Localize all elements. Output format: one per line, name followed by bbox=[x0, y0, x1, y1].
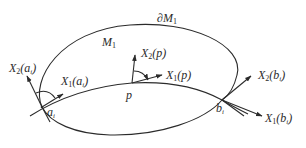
x1-b-label: X1(bi) bbox=[265, 112, 292, 126]
angle-arc-p bbox=[134, 71, 148, 80]
region-label-text: M bbox=[102, 35, 112, 49]
x1-b-vector bbox=[222, 100, 262, 116]
point-p-label: p bbox=[126, 89, 132, 101]
point-a-dot bbox=[41, 106, 44, 109]
x2-b-label: X2(bi) bbox=[258, 69, 285, 83]
paren: ) bbox=[288, 111, 292, 125]
boundary-label: ∂M1 bbox=[157, 12, 177, 26]
boundary-label-sub: 1 bbox=[173, 17, 177, 26]
x1-p-label: X1(p) bbox=[166, 69, 191, 83]
paren: ) bbox=[32, 61, 36, 75]
x2-a-label: X2(ai) bbox=[9, 62, 36, 76]
x2-p-label: X2(p) bbox=[141, 47, 166, 61]
point-b-label: bi bbox=[216, 102, 224, 116]
point-b-sub: i bbox=[222, 108, 224, 116]
x1-a-label: X1(ai) bbox=[61, 75, 88, 89]
point-p-text: p bbox=[126, 88, 132, 102]
paren: ) bbox=[162, 46, 166, 60]
x2-p-vector bbox=[132, 55, 135, 83]
paren: ) bbox=[187, 68, 191, 82]
point-a-label: ai bbox=[47, 106, 55, 120]
paren: ) bbox=[281, 68, 285, 82]
paren: ) bbox=[84, 74, 88, 88]
boundary-label-text: ∂M bbox=[157, 11, 173, 25]
region-label-sub: 1 bbox=[112, 41, 116, 50]
point-a-sub: i bbox=[53, 112, 55, 120]
x2-b-vector bbox=[222, 76, 251, 100]
region-label: M1 bbox=[102, 36, 116, 50]
